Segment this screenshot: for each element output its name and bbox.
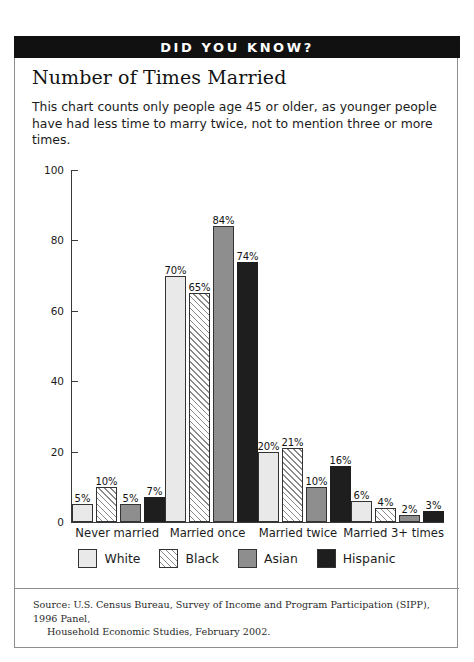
bar-value-label: 84% <box>212 215 234 226</box>
bar-white-married-3-times[interactable]: 6% <box>351 501 372 522</box>
bar-hispanic-married-3-times[interactable]: 3% <box>423 511 444 522</box>
source-divider <box>15 588 459 589</box>
bar-groups: 5%10%5%7%70%65%84%74%20%21%10%16%6%4%2%3… <box>72 170 444 522</box>
legend-label-black: Black <box>185 551 219 566</box>
did-you-know-banner: DID YOU KNOW? <box>14 36 460 58</box>
bar-hispanic-married-twice[interactable]: 16% <box>330 466 351 522</box>
bar-hispanic-married-once[interactable]: 74% <box>237 262 258 522</box>
legend-item-white[interactable]: White <box>78 549 140 568</box>
bar-white-married-twice[interactable]: 20% <box>258 452 279 522</box>
bar-value-label: 7% <box>147 486 163 497</box>
bar-value-label: 5% <box>123 493 139 504</box>
bar-wrapper: 74% <box>237 262 258 522</box>
bar-value-label: 10% <box>305 476 327 487</box>
legend-label-white: White <box>104 551 140 566</box>
bar-group: 20%21%10%16% <box>258 170 351 522</box>
y-axis-tick-label: 100 <box>44 164 64 176</box>
bar-value-label: 20% <box>257 441 279 452</box>
bar-white-married-once[interactable]: 70% <box>165 276 186 522</box>
bar-hispanic-never-married[interactable]: 7% <box>144 497 165 522</box>
y-axis-tick-label: 60 <box>51 305 64 317</box>
bar-value-label: 3% <box>426 500 442 511</box>
bar-group: 70%65%84%74% <box>165 170 258 522</box>
chart-description: This chart counts only people age 45 or … <box>32 99 444 149</box>
bar-value-label: 2% <box>402 504 418 515</box>
bar-wrapper: 7% <box>144 497 165 522</box>
bar-wrapper: 84% <box>213 226 234 522</box>
bar-value-label: 74% <box>236 251 258 262</box>
bar-group: 5%10%5%7% <box>72 170 165 522</box>
bar-wrapper: 65% <box>189 293 210 522</box>
bar-value-label: 16% <box>329 455 351 466</box>
source-line-1: Source: U.S. Census Bureau, Survey of In… <box>33 599 430 624</box>
bar-wrapper: 70% <box>165 276 186 522</box>
did-you-know-figure: DID YOU KNOW? Number of Times Married Th… <box>14 36 458 648</box>
bar-wrapper: 21% <box>282 448 303 522</box>
bar-wrapper: 5% <box>72 504 93 522</box>
source-note: Source: U.S. Census Bureau, Survey of In… <box>33 598 443 639</box>
legend-item-black[interactable]: Black <box>159 549 219 568</box>
x-axis-label-never-married: Never married <box>72 526 162 540</box>
legend-swatch-black <box>159 549 178 568</box>
chart-plot-area: 020406080100 5%10%5%7%70%65%84%74%20%21%… <box>71 170 444 523</box>
bar-wrapper: 16% <box>330 466 351 522</box>
bar-wrapper: 10% <box>306 487 327 522</box>
page-title: Number of Times Married <box>32 66 286 88</box>
bar-white-never-married[interactable]: 5% <box>72 504 93 522</box>
bar-black-married-3-times[interactable]: 4% <box>375 508 396 522</box>
bar-value-label: 65% <box>188 282 210 293</box>
bar-wrapper: 3% <box>423 511 444 522</box>
bar-value-label: 4% <box>378 497 394 508</box>
bar-wrapper: 10% <box>96 487 117 522</box>
bar-value-label: 70% <box>164 265 186 276</box>
bar-value-label: 10% <box>95 476 117 487</box>
legend-swatch-white <box>78 549 97 568</box>
bar-asian-married-twice[interactable]: 10% <box>306 487 327 522</box>
bar-black-married-twice[interactable]: 21% <box>282 448 303 522</box>
x-axis-line <box>71 522 444 523</box>
legend-label-asian: Asian <box>264 551 298 566</box>
legend-item-asian[interactable]: Asian <box>238 549 298 568</box>
bar-black-never-married[interactable]: 10% <box>96 487 117 522</box>
chart-legend: WhiteBlackAsianHispanic <box>15 549 459 568</box>
bar-value-label: 21% <box>281 437 303 448</box>
bar-asian-never-married[interactable]: 5% <box>120 504 141 522</box>
bar-asian-married-once[interactable]: 84% <box>213 226 234 522</box>
bar-value-label: 5% <box>75 493 91 504</box>
bar-wrapper: 5% <box>120 504 141 522</box>
legend-swatch-hispanic <box>317 549 336 568</box>
bar-asian-married-3-times[interactable]: 2% <box>399 515 420 522</box>
y-axis-tick-label: 0 <box>57 516 64 528</box>
bar-black-married-once[interactable]: 65% <box>189 293 210 522</box>
x-axis-label-married-3-times: Married 3+ times <box>343 526 444 540</box>
y-axis-tick-label: 20 <box>51 446 64 458</box>
legend-swatch-asian <box>238 549 257 568</box>
source-line-2: Household Economic Studies, February 200… <box>33 625 443 639</box>
bar-wrapper: 2% <box>399 515 420 522</box>
bar-value-label: 6% <box>354 490 370 501</box>
banner-title: DID YOU KNOW? <box>160 41 314 54</box>
legend-item-hispanic[interactable]: Hispanic <box>317 549 396 568</box>
y-axis-tick-label: 40 <box>51 375 64 387</box>
bar-group: 6%4%2%3% <box>351 170 444 522</box>
y-axis-tick-label: 80 <box>51 234 64 246</box>
x-axis-label-married-twice: Married twice <box>253 526 343 540</box>
bar-wrapper: 4% <box>375 508 396 522</box>
x-axis-label-married-once: Married once <box>162 526 252 540</box>
y-axis-tick-mark <box>72 522 78 523</box>
x-axis-category-labels: Never marriedMarried onceMarried twiceMa… <box>72 526 444 540</box>
bar-wrapper: 6% <box>351 501 372 522</box>
bar-wrapper: 20% <box>258 452 279 522</box>
legend-label-hispanic: Hispanic <box>343 551 396 566</box>
